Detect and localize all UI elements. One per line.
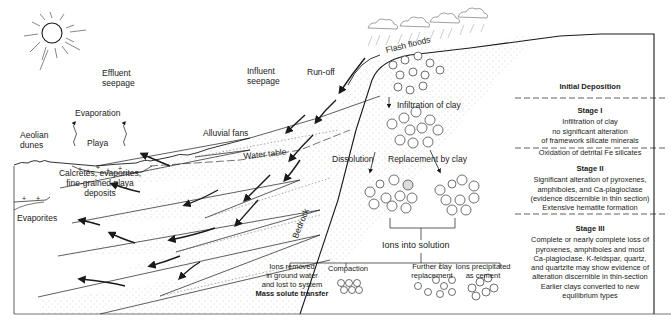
- label-line: Ions precipitated: [448, 262, 518, 271]
- stage-line: Infiltration of clay: [512, 117, 668, 126]
- label-line: Influent: [247, 66, 280, 76]
- stage-line: Complete or nearly complete loss of: [512, 235, 668, 244]
- label-line: deposits: [45, 188, 155, 198]
- stage-line: amphiboles, and Ca-plagioclase: [512, 185, 668, 194]
- label-playa: Playa: [87, 138, 108, 148]
- stage-3: Stage III Complete or nearly complete lo…: [512, 224, 668, 300]
- stage-title: Stage I: [512, 106, 668, 115]
- label-run-off: Run-off: [307, 67, 335, 77]
- svg-text:+: +: [22, 195, 26, 202]
- stage-line: pyroxenes, amphiboles and most: [512, 245, 668, 254]
- stage-title: Stage III: [512, 224, 668, 233]
- stage-line: of framework silicate minerals: [512, 136, 668, 145]
- label-ions-into-solution: Ions into solution: [382, 240, 450, 250]
- stage-2: Stage II Significant alteration of pyrox…: [512, 164, 668, 212]
- label-alluvial-fans: Alluvial fans: [203, 128, 248, 138]
- label-effluent-seepage: Effluent seepage: [102, 68, 135, 88]
- stage-line: Extensive hematite formation: [512, 203, 668, 212]
- label-influent-seepage: Influent seepage: [247, 66, 280, 86]
- stage-line: alteration discernible in thin-section: [512, 272, 668, 281]
- label-line: and lost to system: [252, 280, 332, 289]
- label-line: Ions removed: [252, 262, 332, 271]
- stage-line: Significant alteration of pyroxenes,: [512, 175, 668, 184]
- stage-title: Stage II: [512, 164, 668, 173]
- label-line: in ground water: [252, 271, 332, 280]
- label-ions-precipitated: Ions precipitated as cement: [448, 262, 518, 280]
- label-line: seepage: [247, 76, 280, 86]
- label-ions-removed: Ions removed in ground water and lost to…: [252, 262, 332, 298]
- stage-line: no significant alteration: [512, 127, 668, 136]
- label-line: Aeolian: [20, 130, 48, 140]
- stage-line: and quartzite may show evidence of: [512, 263, 668, 272]
- sun-icon: [24, 12, 86, 70]
- stage-line: equilibrium types: [512, 291, 668, 300]
- label-evaporation: Evaporation: [75, 108, 120, 118]
- label-compaction: Compaction: [328, 264, 368, 273]
- label-line: Effluent: [102, 68, 135, 78]
- label-line: Calcretes, evaporites,: [45, 168, 155, 178]
- stage-1: Stage I Infiltration of clay no signific…: [512, 106, 668, 157]
- stage-title: Initial Deposition: [512, 82, 668, 91]
- label-line: seepage: [102, 78, 135, 88]
- stage-line: Earlier clays converted to new: [512, 282, 668, 291]
- stage-line: Oxidation of detrital Fe silicates: [512, 148, 668, 157]
- label-infiltration-of-clay: Infiltration of clay: [397, 100, 461, 110]
- label-aeolian-dunes: Aeolian dunes: [20, 130, 48, 150]
- label-line: dunes: [20, 140, 48, 150]
- grain-cluster-compaction: [338, 280, 363, 294]
- label-calcretes: Calcretes, evaporites, fine-grained play…: [45, 168, 155, 198]
- stage-line: Ca-plagioclase. K-feldspar, quartz,: [512, 254, 668, 263]
- label-line: fine-grained playa: [45, 178, 155, 188]
- label-replacement-by-clay: Replacement by clay: [388, 154, 467, 164]
- stage-line: (evidence discernible in thin section): [512, 194, 668, 203]
- stage-initial-deposition: Initial Deposition: [512, 82, 668, 93]
- grain-cluster-replacement: [435, 175, 479, 215]
- svg-text:+: +: [36, 195, 40, 202]
- label-dissolution: Dissolution: [332, 154, 374, 164]
- label-mass-solute-transfer: Mass solute transfer: [252, 289, 332, 298]
- label-line: as cement: [448, 271, 518, 280]
- label-evaporites: Evaporites: [17, 213, 57, 223]
